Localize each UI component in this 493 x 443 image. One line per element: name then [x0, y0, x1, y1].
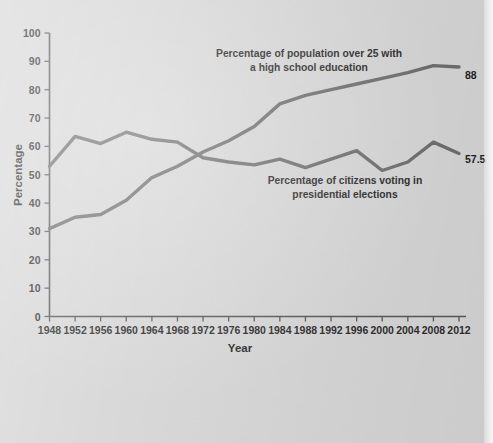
line-chart: 0102030405060708090100 19481952195619601…: [0, 0, 493, 443]
y-axis-ticks: 0102030405060708090100: [23, 27, 50, 323]
education-annotation-line-2: a high school education: [250, 62, 368, 73]
y-tick-label: 60: [29, 140, 41, 152]
chart-series-group: [50, 66, 460, 229]
x-axis-title: Year: [228, 342, 253, 354]
y-tick-label: 50: [29, 169, 41, 181]
x-axis-ticks: 1948195219561960196419681972197619801984…: [38, 317, 471, 336]
education-annotation: Percentage of population over 25 with a …: [216, 48, 402, 73]
series-line-voting: [50, 132, 460, 170]
chart-figure: 0102030405060708090100 19481952195619601…: [0, 0, 493, 443]
x-tick-label: 1948: [38, 324, 62, 336]
x-tick-label: 1976: [217, 324, 241, 336]
y-tick-label: 30: [29, 225, 41, 237]
x-tick-label: 2004: [396, 324, 420, 336]
x-tick-label: 1952: [63, 324, 87, 336]
x-tick-label: 1972: [191, 324, 215, 336]
x-tick-label: 1980: [243, 324, 267, 336]
y-tick-label: 80: [29, 84, 41, 96]
series-line-education: [50, 66, 460, 229]
voting-annotation: Percentage of citizens voting in preside…: [268, 175, 422, 200]
y-tick-label: 90: [29, 55, 41, 67]
x-tick-label: 1956: [89, 324, 113, 336]
y-axis-title: Percentage: [12, 144, 24, 206]
y-tick-label: 10: [29, 282, 41, 294]
endpoint-label-voting: 57.5: [465, 153, 486, 165]
x-tick-label: 1964: [140, 324, 164, 336]
y-tick-label: 40: [29, 197, 41, 209]
y-tick-label: 100: [23, 27, 41, 39]
x-tick-label: 1968: [166, 324, 190, 336]
voting-annotation-line-1: Percentage of citizens voting in: [268, 175, 422, 186]
x-tick-label: 1996: [345, 324, 369, 336]
x-tick-label: 1984: [268, 324, 292, 336]
x-tick-label: 2008: [422, 324, 446, 336]
y-tick-label: 70: [29, 112, 41, 124]
x-tick-label: 2012: [447, 324, 471, 336]
voting-annotation-line-2: presidential elections: [292, 189, 398, 200]
y-tick-label: 0: [35, 311, 41, 323]
x-tick-label: 1988: [294, 324, 318, 336]
y-tick-label: 20: [29, 254, 41, 266]
endpoint-label-education: 88: [465, 69, 477, 81]
x-tick-label: 2000: [371, 324, 395, 336]
x-tick-label: 1992: [319, 324, 343, 336]
x-tick-label: 1960: [115, 324, 139, 336]
education-annotation-line-1: Percentage of population over 25 with: [216, 48, 402, 59]
